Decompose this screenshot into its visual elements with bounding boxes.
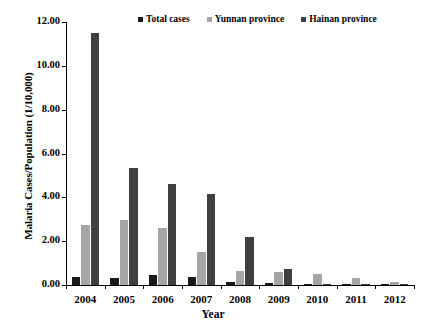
bar — [120, 220, 129, 285]
legend-swatch-yunnan-province — [207, 17, 212, 22]
y-axis-tick-label: 8.00 — [22, 103, 60, 114]
y-axis-tick — [62, 110, 66, 111]
bar — [236, 271, 245, 285]
y-axis-tick-label: 2.00 — [22, 234, 60, 245]
bar — [361, 284, 370, 285]
y-axis-tick-label: 6.00 — [22, 147, 60, 158]
x-axis-tick-label: 2012 — [365, 293, 425, 305]
bar — [381, 284, 390, 285]
x-axis-tick — [259, 285, 260, 289]
bar — [158, 228, 167, 285]
bar-group — [226, 22, 254, 285]
bar — [323, 284, 332, 285]
bar-group — [304, 22, 332, 285]
y-axis-tick — [62, 154, 66, 155]
x-axis-tick — [105, 285, 106, 289]
bar — [207, 194, 216, 285]
y-axis-tick — [62, 66, 66, 67]
x-axis-tick — [337, 285, 338, 289]
bar — [245, 237, 254, 285]
x-axis-title: Year — [0, 308, 426, 320]
bar-group — [149, 22, 177, 285]
x-axis-tick — [182, 285, 183, 289]
y-axis-tick-label: 0.00 — [22, 278, 60, 289]
y-axis-tick-label: 12.00 — [22, 15, 60, 26]
bar — [390, 282, 399, 285]
bar — [274, 272, 283, 285]
x-axis-tick — [414, 285, 415, 289]
bar — [72, 277, 81, 285]
bar — [129, 168, 138, 285]
bar — [81, 225, 90, 285]
bar — [91, 33, 100, 285]
bar — [110, 278, 119, 285]
bar — [352, 278, 361, 285]
bar — [304, 284, 313, 285]
bar — [168, 184, 177, 285]
bar-group — [72, 22, 100, 285]
bar — [197, 252, 206, 285]
bar — [400, 284, 409, 285]
bar — [226, 282, 235, 285]
x-axis-tick — [143, 285, 144, 289]
bar — [284, 269, 293, 285]
y-axis-tick — [62, 22, 66, 23]
y-axis-line — [66, 22, 67, 285]
bar — [188, 277, 197, 285]
x-axis-tick — [298, 285, 299, 289]
legend-swatch-total-cases — [138, 17, 143, 22]
plot-area: 0.002.004.006.008.0010.0012.002004200520… — [66, 22, 414, 285]
x-axis-tick — [66, 285, 67, 289]
bar — [313, 274, 322, 285]
y-axis-tick — [62, 241, 66, 242]
y-axis-tick — [62, 197, 66, 198]
bar-group — [342, 22, 370, 285]
y-axis-tick-label: 10.00 — [22, 59, 60, 70]
bar-group — [110, 22, 138, 285]
bar — [342, 284, 351, 285]
x-axis-line — [66, 285, 414, 286]
bar-group — [188, 22, 216, 285]
malaria-incidence-bar-chart: Malaria Cases/Population (1/10,000) Tota… — [0, 0, 426, 333]
bar — [149, 275, 158, 285]
y-axis-tick-label: 4.00 — [22, 190, 60, 201]
x-axis-tick — [221, 285, 222, 289]
x-axis-tick — [375, 285, 376, 289]
bar-group — [381, 22, 409, 285]
bar-group — [265, 22, 293, 285]
legend-swatch-hainan-province — [301, 17, 306, 22]
bar — [265, 283, 274, 285]
